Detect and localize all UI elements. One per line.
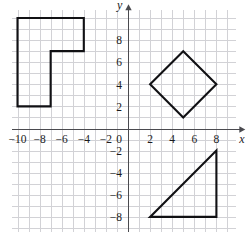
origin-label: 0	[116, 133, 122, 145]
coordinate-plane-svg: −10−8−6−4−22468 8642−2−4−6−8 0 x y	[0, 0, 248, 239]
y-tick-label: −2	[110, 145, 122, 157]
origin-tick-label: 0	[116, 133, 122, 145]
x-tick-label: −2	[100, 133, 112, 145]
coordinate-plane-figure: −10−8−6−4−22468 8642−2−4−6−8 0 x y	[0, 0, 248, 239]
axes-group	[12, 4, 245, 232]
y-tick-label: 6	[116, 56, 122, 68]
x-tick-label: −6	[56, 133, 68, 145]
x-tick-label: 6	[191, 133, 197, 145]
y-tick-label: −4	[110, 167, 122, 179]
x-tick-label: −8	[33, 133, 45, 145]
x-tick-label: 8	[214, 133, 220, 145]
x-tick-label: 4	[169, 133, 175, 145]
y-tick-label: 8	[116, 34, 122, 46]
y-axis-arrow-icon	[125, 4, 131, 10]
x-tick-label: 2	[147, 133, 153, 145]
grid-lines-horizontal	[12, 19, 236, 229]
x-tick-label: −10	[9, 133, 27, 145]
y-tick-label: 4	[116, 79, 122, 91]
y-tick-label: −6	[110, 189, 122, 201]
x-axis-label: x	[238, 132, 245, 146]
y-tick-label: −8	[110, 211, 122, 223]
x-axis-tick-labels: −10−8−6−4−22468	[9, 133, 220, 145]
y-tick-label: 2	[116, 101, 122, 113]
y-axis-label: y	[116, 0, 123, 12]
x-tick-label: −4	[78, 133, 90, 145]
grid-lines-vertical	[19, 10, 228, 232]
